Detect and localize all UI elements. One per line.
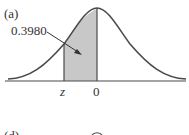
panel-d-label: (d) xyxy=(4,128,19,135)
normal-curve-diagram xyxy=(0,0,189,135)
tick-label-z: z xyxy=(60,84,65,100)
area-value-label: 0.3980 xyxy=(11,23,47,39)
panel-a-label: (a) xyxy=(4,6,18,22)
panel-d-curve-top xyxy=(92,133,102,135)
tick-label-zero: 0 xyxy=(93,84,100,100)
